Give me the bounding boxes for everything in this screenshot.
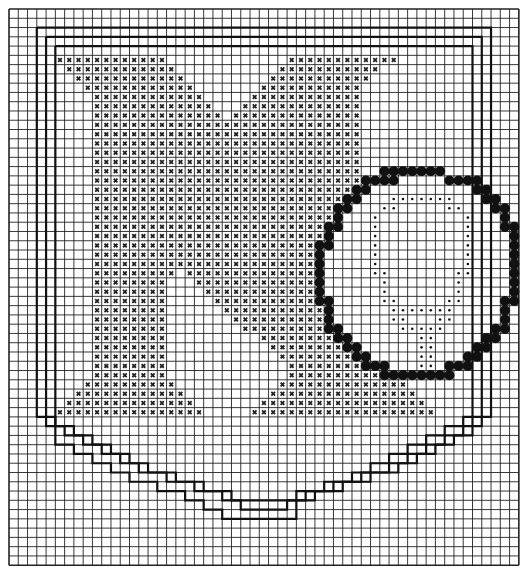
- cross-stitch-icon: [179, 114, 183, 118]
- cross-stitch-icon: [95, 281, 99, 285]
- cross-stitch-icon: [401, 410, 405, 414]
- cross-stitch-icon: [225, 123, 229, 127]
- cross-stitch-icon: [95, 142, 99, 146]
- cross-stitch-icon: [244, 123, 248, 127]
- cross-stitch-icon: [132, 401, 136, 405]
- cross-stitch-icon: [197, 410, 201, 414]
- filled-circle-stitch-icon: [389, 175, 399, 185]
- cross-stitch-icon: [169, 392, 173, 396]
- cross-stitch-icon: [318, 151, 322, 155]
- cross-stitch-icon: [169, 123, 173, 127]
- cross-stitch-icon: [281, 346, 285, 350]
- cross-stitch-icon: [290, 355, 294, 359]
- cross-stitch-icon: [151, 364, 155, 368]
- cross-stitch-icon: [151, 151, 155, 155]
- cross-stitch-icon: [271, 123, 275, 127]
- cross-stitch-icon: [336, 355, 340, 359]
- cross-stitch-icon: [234, 244, 238, 248]
- cross-stitch-icon: [262, 151, 266, 155]
- cross-stitch-icon: [160, 355, 164, 359]
- cross-stitch-icon: [197, 281, 201, 285]
- cross-stitch-icon: [299, 364, 303, 368]
- cross-stitch-icon: [281, 123, 285, 127]
- cross-stitch-icon: [132, 188, 136, 192]
- cross-stitch-icon: [327, 364, 331, 368]
- dot-stitch-icon: [392, 309, 395, 312]
- cross-stitch-icon: [95, 151, 99, 155]
- cross-stitch-icon: [262, 281, 266, 285]
- cross-stitch-icon: [77, 401, 81, 405]
- cross-stitch-icon: [225, 290, 229, 294]
- cross-stitch-icon: [132, 364, 136, 368]
- cross-stitch-icon: [123, 151, 127, 155]
- filled-circle-stitch-icon: [370, 361, 380, 371]
- cross-stitch-icon: [104, 318, 108, 322]
- cross-stitch-icon: [262, 142, 266, 146]
- cross-stitch-icon: [151, 123, 155, 127]
- cross-stitch-icon: [188, 86, 192, 90]
- cross-stitch-icon: [160, 244, 164, 248]
- cross-stitch-icon: [225, 281, 229, 285]
- cross-stitch-icon: [132, 86, 136, 90]
- cross-stitch-icon: [104, 86, 108, 90]
- cross-stitch-icon: [308, 373, 312, 377]
- cross-stitch-icon: [104, 281, 108, 285]
- cross-stitch-icon: [429, 410, 433, 414]
- filled-circle-stitch-icon: [407, 370, 417, 380]
- cross-stitch-icon: [346, 67, 350, 71]
- cross-stitch-icon: [132, 179, 136, 183]
- filled-circle-stitch-icon: [370, 175, 380, 185]
- cross-stitch-icon: [132, 77, 136, 81]
- cross-stitch-icon: [225, 179, 229, 183]
- cross-stitch-icon: [253, 142, 257, 146]
- cross-stitch-icon: [271, 281, 275, 285]
- dot-stitch-icon: [429, 365, 432, 368]
- cross-stitch-icon: [114, 95, 118, 99]
- cross-stitch-icon: [216, 160, 220, 164]
- cross-stitch-icon: [253, 299, 257, 303]
- cross-stitch-icon: [392, 383, 396, 387]
- cross-stitch-icon: [114, 179, 118, 183]
- cross-stitch-icon: [234, 169, 238, 173]
- cross-stitch-icon: [179, 86, 183, 90]
- cross-stitch-icon: [160, 132, 164, 136]
- cross-stitch-icon: [336, 86, 340, 90]
- cross-stitch-icon: [318, 355, 322, 359]
- cross-stitch-icon: [104, 392, 108, 396]
- cross-stitch-icon: [206, 290, 210, 294]
- cross-stitch-icon: [244, 169, 248, 173]
- cross-stitch-icon: [132, 216, 136, 220]
- cross-stitch-icon: [142, 67, 146, 71]
- cross-stitch-icon: [169, 216, 173, 220]
- dot-stitch-icon: [420, 365, 423, 368]
- cross-stitch-icon: [104, 132, 108, 136]
- cross-stitch-icon: [216, 188, 220, 192]
- cross-stitch-icon: [244, 151, 248, 155]
- cross-stitch-icon: [225, 244, 229, 248]
- cross-stitch-icon: [262, 327, 266, 331]
- cross-stitch-icon: [169, 86, 173, 90]
- cross-stitch-icon: [104, 299, 108, 303]
- cross-stitch-icon: [355, 67, 359, 71]
- cross-stitch-icon: [142, 142, 146, 146]
- cross-stitch-icon: [123, 262, 127, 266]
- cross-stitch-icon: [132, 327, 136, 331]
- cross-stitch-icon: [197, 216, 201, 220]
- cross-stitch-icon: [95, 401, 99, 405]
- cross-stitch-icon: [234, 188, 238, 192]
- cross-stitch-icon: [299, 67, 303, 71]
- cross-stitch-icon: [188, 114, 192, 118]
- cross-stitch-icon: [95, 410, 99, 414]
- cross-stitch-icon: [346, 160, 350, 164]
- cross-stitch-icon: [142, 151, 146, 155]
- cross-stitch-icon: [151, 225, 155, 229]
- cross-stitch-icon: [188, 271, 192, 275]
- cross-stitch-icon: [151, 290, 155, 294]
- cross-stitch-icon: [262, 308, 266, 312]
- cross-stitch-icon: [151, 346, 155, 350]
- cross-stitch-icon: [114, 308, 118, 312]
- cross-stitch-icon: [234, 271, 238, 275]
- cross-stitch-icon: [104, 401, 108, 405]
- cross-stitch-icon: [401, 392, 405, 396]
- cross-stitch-icon: [336, 95, 340, 99]
